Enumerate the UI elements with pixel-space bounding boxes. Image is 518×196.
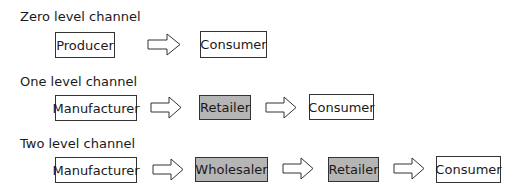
row-title-zero-level: Zero level channel xyxy=(20,9,141,25)
right-arrow-icon xyxy=(393,157,425,180)
node-retailer: Retailer xyxy=(199,95,251,120)
node-consumer: Consumer xyxy=(200,31,267,58)
node-manufacturer: Manufacturer xyxy=(55,157,137,183)
node-manufacturer: Manufacturer xyxy=(55,95,137,121)
row-title-two-level: Two level channel xyxy=(20,136,135,152)
right-arrow-icon xyxy=(150,96,182,119)
right-arrow-icon xyxy=(152,158,184,181)
node-wholesaler: Wholesaler xyxy=(195,157,268,182)
right-arrow-icon xyxy=(147,33,181,56)
node-retailer: Retailer xyxy=(328,157,379,182)
node-producer: Producer xyxy=(55,32,115,58)
right-arrow-icon xyxy=(265,96,297,119)
node-consumer: Consumer xyxy=(309,94,374,120)
node-consumer: Consumer xyxy=(436,156,501,183)
right-arrow-icon xyxy=(282,157,314,180)
row-title-one-level: One level channel xyxy=(20,74,137,90)
